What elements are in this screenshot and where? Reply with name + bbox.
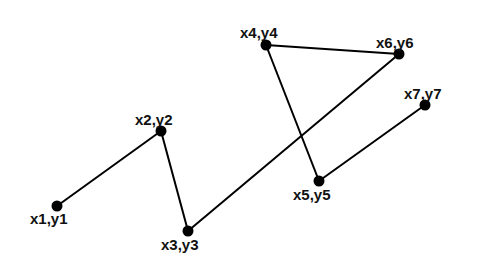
point-label-p6: x6,y6 bbox=[376, 34, 414, 51]
diagram-canvas: x1,y1x2,y2x3,y3x4,y4x5,y5x6,y6x7,y7 bbox=[0, 0, 482, 269]
nodes-group bbox=[52, 40, 431, 237]
edges-group bbox=[57, 45, 425, 231]
edge-p2-p3 bbox=[161, 131, 188, 231]
point-label-p5: x5,y5 bbox=[293, 186, 331, 203]
point-p4-dot-icon bbox=[261, 40, 272, 51]
point-label-p1: x1,y1 bbox=[30, 210, 68, 227]
point-p3-dot-icon bbox=[183, 226, 194, 237]
edge-p4-p5 bbox=[266, 45, 319, 181]
edge-p1-p2 bbox=[57, 131, 161, 206]
point-label-p4: x4,y4 bbox=[240, 24, 278, 41]
point-p5-dot-icon bbox=[314, 176, 325, 187]
point-label-p7: x7,y7 bbox=[404, 85, 442, 102]
point-label-p2: x2,y2 bbox=[135, 111, 173, 128]
point-label-p3: x3,y3 bbox=[161, 236, 199, 253]
edge-p5-p7 bbox=[319, 105, 425, 181]
edge-p3-p6 bbox=[188, 54, 399, 231]
